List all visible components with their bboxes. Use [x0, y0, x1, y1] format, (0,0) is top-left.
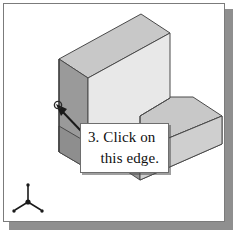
axis-triad-z-tip — [26, 183, 29, 186]
axis-triad-origin-dot — [25, 199, 30, 204]
instruction-callout: 3. Click on this edge. — [80, 123, 169, 173]
callout-line-2: this edge. — [87, 148, 162, 169]
axis-triad-x-tip — [40, 209, 43, 212]
axis-triad-y-tip — [12, 209, 15, 212]
coordinate-axis-triad — [12, 183, 43, 212]
isometric-solid-drawing — [4, 4, 225, 222]
figure-root: 3. Click on this edge. — [0, 0, 235, 232]
callout-line-1: 3. Click on — [87, 127, 162, 148]
figure-frame: 3. Click on this edge. — [3, 3, 225, 222]
